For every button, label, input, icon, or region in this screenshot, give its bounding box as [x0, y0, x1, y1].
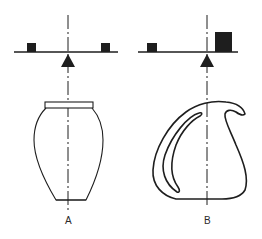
weight-right-a: [101, 43, 110, 52]
fulcrum-b: [200, 54, 214, 67]
weight-left-b: [147, 43, 157, 52]
balance-diagram: [0, 0, 262, 239]
fulcrum-a: [61, 54, 75, 67]
label-a: A: [65, 216, 72, 226]
vase-rim: [45, 102, 93, 108]
pitcher-handle: [163, 113, 202, 192]
panel-a: [14, 15, 118, 210]
label-b: B: [204, 216, 211, 226]
weight-left-a: [27, 43, 36, 52]
panel-b: [138, 15, 246, 208]
weight-right-b: [215, 32, 232, 52]
